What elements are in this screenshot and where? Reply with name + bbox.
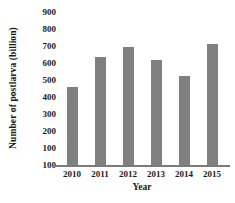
bar-2012 — [123, 47, 134, 165]
bar-2015 — [207, 44, 218, 165]
y-axis-tick-label: 500 — [22, 75, 56, 85]
x-axis-tick-label: 2013 — [142, 168, 170, 182]
x-axis-title: Year — [58, 182, 226, 192]
x-axis-tick-label: 2012 — [114, 168, 142, 182]
x-axis-tick-label: 2010 — [58, 168, 86, 182]
y-axis-tick-label: 100 — [22, 160, 56, 170]
bar-2013 — [151, 60, 162, 165]
bar-series — [58, 12, 226, 165]
x-axis-tick-label: 2014 — [170, 168, 198, 182]
y-axis-tick-labels: 900800700600500400300200100100 — [22, 12, 56, 165]
bar-2011 — [95, 57, 106, 165]
x-axis-tick-label: 2011 — [86, 168, 114, 182]
y-axis-tick-label: 200 — [22, 126, 56, 136]
x-axis-tick-label: 2015 — [198, 168, 226, 182]
bar-slot — [58, 12, 86, 165]
y-axis-tick-label: 800 — [22, 24, 56, 34]
bar-2014 — [179, 76, 190, 165]
y-axis-title: Number of postlarva (billion) — [2, 8, 24, 168]
x-axis-tick-labels: 201020112012201320142015 — [58, 168, 226, 182]
y-axis-tick-label: 900 — [22, 7, 56, 17]
bar-chart-figure: Number of postlarva (billion) 9008007006… — [0, 0, 235, 203]
plot-area — [58, 12, 226, 165]
y-axis-tick-label: 600 — [22, 58, 56, 68]
y-axis-tick-label: 300 — [22, 109, 56, 119]
bar-slot — [198, 12, 226, 165]
y-axis-tick-label: 400 — [22, 92, 56, 102]
bar-slot — [86, 12, 114, 165]
y-axis-tick-label: 100 — [22, 143, 56, 153]
bar-slot — [170, 12, 198, 165]
x-axis-line — [52, 165, 230, 167]
bar-2010 — [67, 87, 78, 165]
bar-slot — [114, 12, 142, 165]
bar-slot — [142, 12, 170, 165]
y-axis-tick-label: 700 — [22, 41, 56, 51]
